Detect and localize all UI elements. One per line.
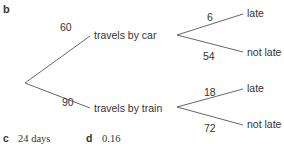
part-d-label: d: [86, 132, 92, 144]
node-train-late: late: [247, 82, 264, 94]
count-car-late: 6: [207, 11, 213, 23]
count-train: 90: [62, 96, 74, 108]
node-travels-by-train: travels by train: [94, 102, 162, 114]
part-b-label: b: [3, 3, 10, 15]
node-travels-by-car: travels by car: [94, 29, 157, 41]
part-d-answer: 0.16: [102, 133, 120, 144]
count-car: 60: [60, 21, 72, 33]
count-car-not-late: 54: [203, 50, 215, 62]
part-c-answer: 24 days: [18, 133, 50, 144]
node-car-not-late: not late: [247, 46, 282, 58]
part-c-label: c: [3, 132, 9, 144]
node-car-late: late: [247, 7, 264, 19]
branch-car: [25, 36, 90, 83]
branch-train: [25, 83, 90, 108]
frequency-tree-diagram: b 60 travels by car 90 travels by train …: [0, 0, 284, 144]
count-train-not-late: 72: [204, 122, 216, 134]
node-train-not-late: not late: [247, 118, 282, 130]
count-train-late: 18: [204, 86, 216, 98]
